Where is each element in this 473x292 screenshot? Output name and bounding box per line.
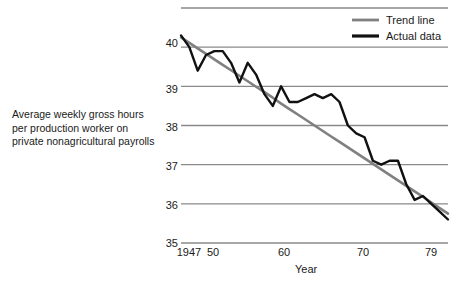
- x-tick-label-1947: 1947: [174, 246, 204, 258]
- y-tick-label-36: 36: [158, 199, 178, 211]
- x-tick-label-50: 50: [203, 246, 223, 258]
- y-tick-label-37: 37: [158, 160, 178, 172]
- caption-line-3: private nonagricultural payrolls: [12, 135, 177, 149]
- chart-caption: Average weekly gross hours per productio…: [12, 108, 177, 149]
- caption-line-1: Average weekly gross hours: [12, 108, 177, 122]
- legend-label-actual: Actual data: [386, 30, 441, 42]
- x-tick-label-70: 70: [353, 246, 373, 258]
- y-tick-label-38: 38: [158, 121, 178, 133]
- x-tick-label-60: 60: [274, 246, 294, 258]
- chart-figure: Average weekly gross hours per productio…: [0, 0, 473, 292]
- legend-label-trend: Trend line: [386, 14, 435, 26]
- x-tick-label-79: 79: [421, 246, 441, 258]
- y-tick-label-39: 39: [158, 83, 178, 95]
- y-tick-label-40: 40: [158, 37, 178, 49]
- x-axis-title: Year: [295, 263, 317, 275]
- caption-line-2: per production worker on: [12, 122, 177, 136]
